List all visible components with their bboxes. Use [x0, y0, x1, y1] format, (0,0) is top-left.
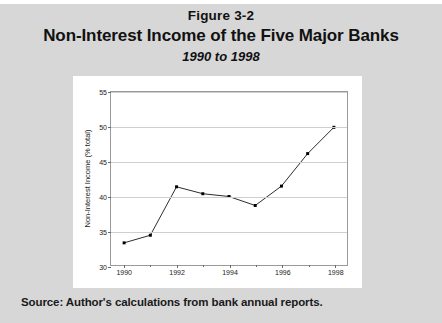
y-tick-mark — [108, 127, 111, 128]
y-tick-label: 35 — [99, 229, 107, 236]
x-tick-label: 1996 — [275, 269, 291, 277]
x-tick-mark-minor — [309, 265, 310, 267]
x-tick-mark-minor — [203, 265, 204, 267]
figure-container: Figure 3-2 Non-Interest Income of the Fi… — [0, 0, 442, 323]
y-tick-mark — [108, 197, 111, 198]
x-tick-mark-minor — [256, 265, 257, 267]
y-gridline — [111, 197, 347, 198]
x-tick-mark-major — [282, 265, 283, 268]
line-series — [111, 92, 347, 265]
data-point-marker — [280, 185, 283, 188]
x-tick-label: 1998 — [328, 269, 344, 277]
x-tick-mark-major — [177, 265, 178, 268]
plot-area: 30354045505519901992199419961998 — [110, 91, 348, 266]
y-tick-mark — [108, 232, 111, 233]
x-tick-mark-major — [335, 265, 336, 268]
x-tick-label: 1990 — [116, 269, 132, 277]
data-point-marker — [306, 152, 309, 155]
figure-heading: Figure 3-2 Non-Interest Income of the Fi… — [0, 8, 442, 65]
y-gridline — [111, 92, 347, 93]
y-gridline — [111, 127, 347, 128]
figure-subtitle: 1990 to 1998 — [0, 48, 442, 65]
y-tick-label: 45 — [99, 159, 107, 166]
y-tick-label: 55 — [99, 89, 107, 96]
chart-panel: Non-Interest Income (% total) 3035404550… — [73, 76, 362, 288]
data-point-marker — [201, 192, 204, 195]
x-tick-mark-major — [124, 265, 125, 268]
y-tick-label: 50 — [99, 124, 107, 131]
y-axis-title: Non-Interest Income (% total) — [82, 91, 94, 266]
y-tick-mark — [108, 267, 111, 268]
y-tick-label: 40 — [99, 194, 107, 201]
data-point-marker — [149, 234, 152, 237]
y-tick-mark — [108, 162, 111, 163]
x-tick-label: 1992 — [169, 269, 185, 277]
y-gridline — [111, 162, 347, 163]
data-point-marker — [175, 185, 178, 188]
figure-title: Non-Interest Income of the Five Major Ba… — [0, 25, 442, 46]
source-note: Source: Author's calculations from bank … — [21, 296, 323, 308]
data-point-marker — [123, 241, 126, 244]
y-tick-mark — [108, 92, 111, 93]
y-axis-title-text: Non-Interest Income (% total) — [84, 130, 93, 228]
series-line — [124, 127, 334, 243]
y-tick-label: 30 — [99, 264, 107, 271]
x-tick-mark-minor — [150, 265, 151, 267]
figure-number: Figure 3-2 — [0, 8, 442, 24]
x-tick-label: 1994 — [222, 269, 238, 277]
data-point-marker — [254, 204, 257, 207]
x-tick-mark-major — [230, 265, 231, 268]
y-gridline — [111, 232, 347, 233]
